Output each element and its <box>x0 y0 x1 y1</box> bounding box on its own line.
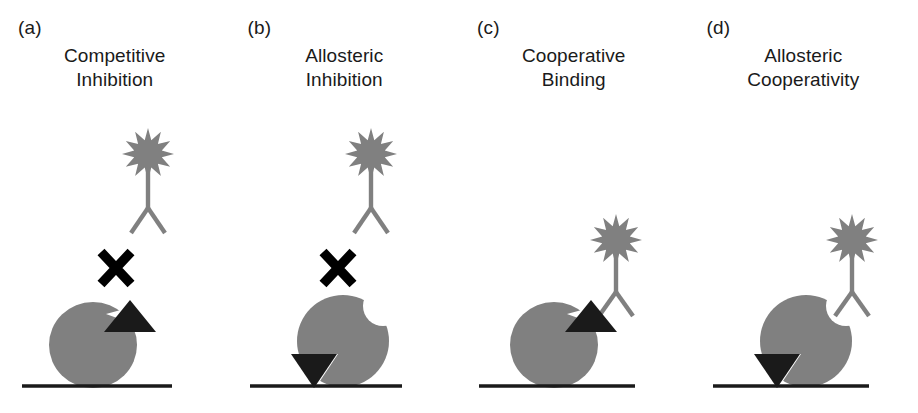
star-icon <box>590 214 642 266</box>
blocked-x-icon <box>323 252 353 284</box>
panel-c: (c) Cooperative Binding <box>459 0 689 413</box>
star-icon <box>826 214 878 266</box>
star-icon <box>122 128 174 180</box>
panel-c-artwork <box>459 0 689 413</box>
ligand-triangle-icon <box>104 300 156 332</box>
panel-a: (a) Competitive Inhibition <box>0 0 230 413</box>
star-icon <box>345 128 397 180</box>
panel-d: (d) Allosteric Cooperativity <box>689 0 918 413</box>
panel-d-artwork <box>689 0 918 413</box>
panel-b-artwork <box>230 0 460 413</box>
blocked-x-icon <box>101 252 131 284</box>
panel-a-artwork <box>0 0 230 413</box>
panel-b: (b) Allosteric Inhibition <box>230 0 460 413</box>
binding-mechanisms-figure: (a) Competitive Inhibition <box>0 0 918 413</box>
